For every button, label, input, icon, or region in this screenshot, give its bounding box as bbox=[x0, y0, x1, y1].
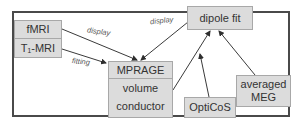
node-mprage-volume: volume bbox=[109, 79, 172, 97]
node-opticos-label: OptiCoS bbox=[189, 101, 231, 114]
edge-meg-to-dipole bbox=[219, 31, 255, 75]
node-dipole-fit-label: dipole fit bbox=[200, 12, 241, 25]
edge-label-t1-fitting: fitting bbox=[72, 56, 91, 67]
node-opticos: OptiCoS bbox=[184, 97, 236, 118]
node-dipole-fit: dipole fit bbox=[187, 6, 253, 30]
node-averaged-meg: averaged MEG bbox=[236, 75, 291, 107]
node-mprage-conductor: conductor bbox=[109, 97, 172, 115]
node-t1-mri: T₁-MRI bbox=[14, 38, 62, 58]
node-averaged-meg-line1: averaged bbox=[241, 78, 287, 91]
edge-volume-to-dipole bbox=[173, 31, 210, 90]
node-fmri: fMRI bbox=[14, 20, 62, 39]
edge-dipole-to-mprage bbox=[141, 22, 188, 60]
edge-opticos-to-dipole bbox=[200, 54, 209, 97]
node-fmri-label: fMRI bbox=[26, 23, 49, 36]
node-mprage-title: MPRAGE bbox=[109, 62, 172, 79]
node-t1-mri-label: T₁-MRI bbox=[21, 42, 55, 55]
node-mprage-volume-conductor: MPRAGE volume conductor bbox=[108, 61, 173, 118]
node-averaged-meg-line2: MEG bbox=[251, 91, 276, 104]
